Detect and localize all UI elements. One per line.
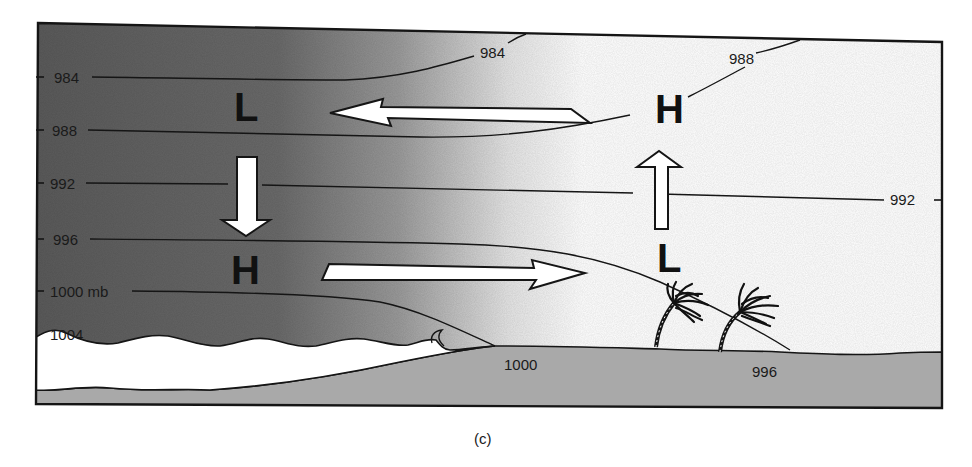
sea-breeze-diagram: 984 988 992 996 1000 mb 1004 984 988 992… [0,0,972,467]
low-pressure-aloft-sea: L [234,85,258,129]
isobar-label-988-top: 988 [729,50,754,67]
isobar-label-984-left: 984 [54,69,79,86]
high-pressure-surface-sea: H [231,248,260,292]
isobar-label-984-top: 984 [480,44,505,61]
isobar-label-1000mb-left: 1000 mb [50,283,108,300]
figure-caption: (c) [474,430,492,447]
low-pressure-surface-land: L [657,236,681,280]
isobar-label-992-left: 992 [50,175,75,192]
isobar-label-996-ground: 996 [752,363,777,380]
isobar-label-1004-left: 1004 [50,326,83,343]
isobar-label-1000-ground: 1000 [504,356,537,373]
high-pressure-aloft-land: H [655,87,684,131]
isobar-label-996-left: 996 [53,231,78,248]
isobar-label-988-left: 988 [52,122,77,139]
isobar-label-992-right: 992 [890,191,915,208]
